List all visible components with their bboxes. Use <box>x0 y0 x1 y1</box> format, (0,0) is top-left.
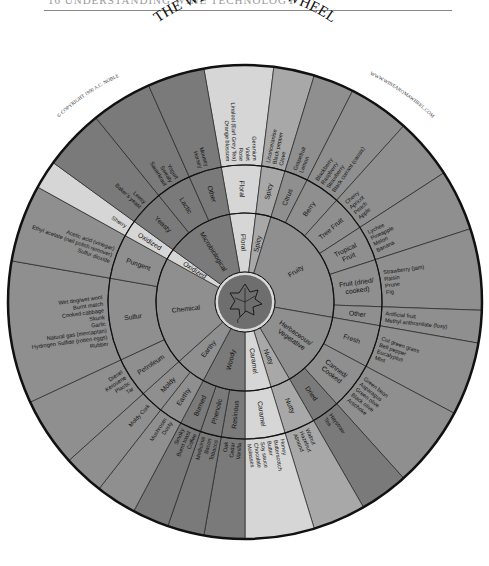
center-leaf-medallion <box>215 272 275 332</box>
tier3-label: Oak <box>222 441 229 452</box>
tier2-label: Floral <box>238 180 245 198</box>
wine-aroma-wheel: THE WINE AROMA WHEEL © COPYRIGHT 1990 A.… <box>0 0 489 566</box>
tier3-label: Violet <box>245 147 251 161</box>
tier1-label: Floral <box>240 234 247 252</box>
wheel-title: THE WINE AROMA WHEEL <box>151 0 340 25</box>
tier3-label: Geranium <box>251 136 258 161</box>
tier3-label: Rose <box>238 148 244 161</box>
tier3-label: Orange blossom <box>224 120 231 162</box>
tier3-label: Fig <box>386 288 395 295</box>
